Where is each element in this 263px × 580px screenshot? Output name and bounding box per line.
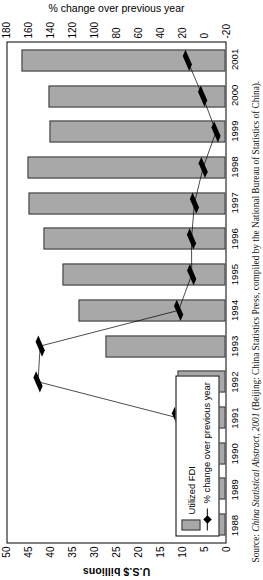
y-tick-left: 20 — [133, 546, 143, 557]
chart-canvas: U.S.$ billions % change over previous ye… — [0, 0, 263, 580]
x-tick-label: 1993 — [228, 335, 239, 356]
y-tick-left: 25 — [111, 546, 121, 557]
x-tick-label: 1996 — [228, 228, 239, 249]
data-point-marker — [33, 371, 42, 392]
y-tick-right: 100 — [89, 21, 99, 38]
data-point-marker — [182, 49, 191, 70]
y-tick-left: 0 — [221, 546, 231, 552]
x-tick-label: 1994 — [228, 299, 239, 320]
y-tick-left: 15 — [155, 546, 165, 557]
chart-legend: Utilized FDI % change over previous year — [175, 375, 219, 536]
x-tick-label: 1998 — [228, 156, 239, 177]
y-tick-left: 45 — [23, 546, 33, 557]
y-tick-left: 50 — [1, 546, 11, 557]
x-tick-label: 1989 — [228, 479, 239, 500]
y-tick-left: 10 — [177, 546, 187, 557]
legend-bar-swatch — [181, 519, 200, 530]
y2-axis-title: % change over previous year — [48, 1, 184, 13]
legend-bar-label: Utilized FDI — [186, 466, 197, 514]
source-title: China Statistical Abstract, 2001 — [250, 412, 260, 531]
data-point-marker — [186, 228, 195, 249]
figure-source: Source: China Statistical Abstract, 2001… — [250, 4, 261, 562]
y-axis-ticks-right: -20020406080100120140160180 — [0, 16, 232, 40]
y-tick-left: 40 — [45, 546, 55, 557]
x-tick-label: 1988 — [228, 514, 239, 535]
y-axis-title: U.S.$ billions — [82, 565, 149, 577]
data-point-marker — [211, 121, 220, 142]
figure-root: U.S.$ billions % change over previous ye… — [0, 0, 263, 580]
y-axis-ticks-left: 05101520253035404550 — [0, 544, 232, 564]
x-tick-label: 1995 — [228, 263, 239, 284]
legend-line-marker-icon — [202, 508, 212, 530]
x-tick-label: 2000 — [228, 84, 239, 105]
fdi-chart: U.S.$ billions % change over previous ye… — [0, 0, 263, 580]
y-tick-right: 180 — [1, 21, 11, 38]
x-tick-label: 2001 — [228, 48, 239, 69]
legend-line-label: % change over previous year — [201, 382, 212, 503]
y-tick-right: 140 — [45, 21, 55, 38]
y-tick-right: 0 — [199, 32, 209, 38]
y-tick-left: 5 — [199, 546, 209, 552]
y-tick-right: 160 — [23, 21, 33, 38]
y-axis-label-right: % change over previous year — [0, 0, 232, 14]
source-prefix: Source: — [250, 534, 260, 562]
x-tick-label: 1991 — [228, 407, 239, 428]
x-tick-label: 1997 — [228, 192, 239, 213]
y-tick-right: 20 — [177, 27, 187, 38]
x-axis-ticks: 1988198919901991199219931994199519961997… — [228, 41, 244, 543]
y-tick-left: 30 — [89, 546, 99, 557]
x-tick-label: 1999 — [228, 120, 239, 141]
y-tick-right: 40 — [155, 27, 165, 38]
source-rest: (Beijing: China Statistics Press, compil… — [250, 80, 260, 412]
x-tick-label: 1990 — [228, 443, 239, 464]
y-tick-left: 35 — [67, 546, 77, 557]
data-point-marker — [187, 264, 196, 285]
y-tick-right: -20 — [221, 24, 231, 38]
plot-area: Utilized FDI % change over previous year — [6, 41, 226, 543]
y-tick-right: 80 — [111, 27, 121, 38]
legend-item-line: % change over previous year — [201, 382, 212, 530]
y-axis-label-left: U.S.$ billions — [0, 564, 232, 578]
x-tick-label: 1992 — [228, 371, 239, 392]
legend-item-bar: Utilized FDI — [181, 382, 200, 530]
y-tick-right: 120 — [67, 21, 77, 38]
y-tick-right: 60 — [133, 27, 143, 38]
